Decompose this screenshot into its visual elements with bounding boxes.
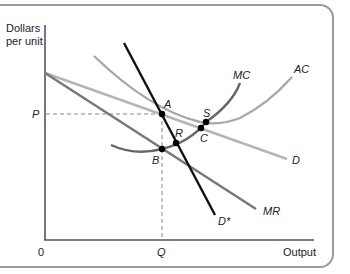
ac-label: AC [293,63,309,75]
x-axis-label: Output [283,246,316,258]
point-s-marker [203,119,209,125]
economics-diagram: A B R C S MC AC D MR D* P Q 0 Output [0,0,350,274]
point-c-label: C [200,132,208,144]
origin-label: 0 [38,246,44,258]
mc-label: MC [233,69,250,81]
average-cost-curve [94,56,292,123]
price-label: P [32,108,40,120]
mr-label: MR [263,205,280,217]
point-a-marker [159,111,165,117]
point-c-marker [198,125,204,131]
dstar-label: D* [218,215,231,227]
quantity-label: Q [157,246,166,258]
point-a-label: A [163,98,171,110]
point-s-label: S [203,107,211,119]
demand-curve [45,73,287,159]
point-r-marker [173,140,179,146]
d-label: D [292,154,300,166]
point-b-label: B [152,154,159,166]
point-r-label: R [175,127,183,139]
point-b-marker [159,146,165,152]
